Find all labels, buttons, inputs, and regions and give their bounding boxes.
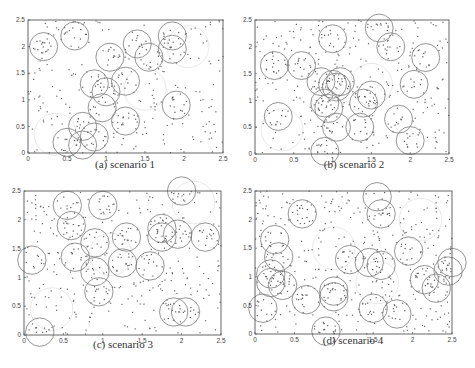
data-point xyxy=(318,108,319,109)
data-point xyxy=(409,136,410,137)
data-point xyxy=(258,301,259,302)
data-point xyxy=(371,314,372,315)
data-point xyxy=(87,269,88,270)
data-point xyxy=(94,237,95,238)
data-point xyxy=(71,252,72,253)
data-point xyxy=(219,21,220,22)
data-point xyxy=(397,91,398,92)
data-point xyxy=(385,294,386,295)
data-point xyxy=(283,262,284,263)
data-point xyxy=(289,203,290,204)
data-point xyxy=(367,27,368,28)
x-tick-label: 2.5 xyxy=(216,337,225,344)
data-point xyxy=(298,61,299,62)
data-point xyxy=(263,273,264,274)
data-point xyxy=(100,247,101,248)
data-point xyxy=(401,29,402,30)
data-point xyxy=(33,266,34,267)
data-point xyxy=(140,212,141,213)
data-point xyxy=(444,260,445,261)
data-point xyxy=(359,96,360,97)
data-point xyxy=(348,86,349,87)
data-point xyxy=(190,294,191,295)
data-point xyxy=(265,266,266,267)
data-point xyxy=(75,74,76,75)
data-point xyxy=(274,21,275,22)
data-point xyxy=(73,203,74,204)
data-point xyxy=(28,93,29,94)
data-point xyxy=(352,91,353,92)
data-point xyxy=(135,85,136,86)
data-point xyxy=(387,40,388,41)
data-point xyxy=(173,42,174,43)
data-point xyxy=(380,214,381,215)
coverage-circle xyxy=(385,105,413,133)
data-point xyxy=(385,309,386,310)
data-point xyxy=(113,267,114,268)
data-point xyxy=(318,237,319,238)
data-point xyxy=(385,258,386,259)
data-point xyxy=(211,230,212,231)
data-point xyxy=(401,119,402,120)
data-point xyxy=(163,139,164,140)
y-tick-label: 0.5 xyxy=(16,123,25,130)
data-point xyxy=(440,317,441,318)
data-point xyxy=(99,201,100,202)
data-point xyxy=(47,38,48,39)
data-point xyxy=(262,266,263,267)
data-point xyxy=(354,106,355,107)
data-point xyxy=(376,258,377,259)
data-point xyxy=(387,213,388,214)
data-point xyxy=(276,285,277,286)
faint-circle xyxy=(124,68,166,110)
data-point xyxy=(300,67,301,68)
data-point xyxy=(173,53,174,54)
data-point xyxy=(319,332,320,333)
y-tick-label: 1 xyxy=(248,97,252,104)
data-point xyxy=(171,192,172,193)
data-point xyxy=(118,115,119,116)
data-point xyxy=(198,58,199,59)
data-point xyxy=(263,221,264,222)
data-point xyxy=(180,321,181,322)
data-point xyxy=(220,302,221,303)
axes-frame xyxy=(255,191,452,334)
data-point xyxy=(48,297,49,298)
data-point xyxy=(377,249,378,250)
data-point xyxy=(332,79,333,80)
data-point xyxy=(434,280,435,281)
data-point xyxy=(37,49,38,50)
y-tick-label: 0 xyxy=(248,330,252,337)
coverage-circle xyxy=(96,43,124,71)
data-point xyxy=(121,257,122,258)
data-point xyxy=(392,85,393,86)
data-point xyxy=(370,311,371,312)
data-point xyxy=(321,195,322,196)
data-point xyxy=(152,287,153,288)
data-point xyxy=(188,236,189,237)
faint-circle xyxy=(167,26,209,68)
data-point xyxy=(319,230,320,231)
data-point xyxy=(212,283,213,284)
data-point xyxy=(136,38,137,39)
data-point xyxy=(333,123,334,124)
data-point xyxy=(294,314,295,315)
data-point xyxy=(151,221,152,222)
data-point xyxy=(365,258,366,259)
data-point xyxy=(303,312,304,313)
data-point xyxy=(127,298,128,299)
data-point xyxy=(51,70,52,71)
data-point xyxy=(98,131,99,132)
y-tick-label: 0 xyxy=(248,150,252,157)
data-point xyxy=(429,233,430,234)
data-point xyxy=(193,139,194,140)
data-point xyxy=(182,233,183,234)
data-point xyxy=(124,325,125,326)
data-point xyxy=(154,109,155,110)
data-point xyxy=(211,106,212,107)
data-point xyxy=(136,132,137,133)
data-point xyxy=(128,265,129,266)
data-point xyxy=(63,234,64,235)
data-point xyxy=(120,286,121,287)
data-point xyxy=(411,229,412,230)
